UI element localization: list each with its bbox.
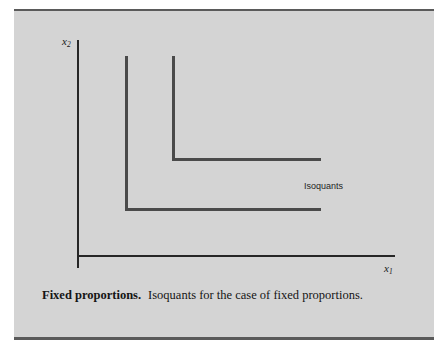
bottom-rule	[14, 337, 434, 340]
isoquant-2-horizontal-segment	[172, 158, 321, 161]
x-axis-label: x1	[384, 263, 393, 274]
figure-caption: Fixed proportions.Isoquants for the case…	[42, 287, 407, 303]
isoquant-1-horizontal-segment	[125, 208, 321, 211]
figure-container: x2 x1 Isoquants Fixed proportions.Isoqua…	[0, 0, 444, 352]
y-axis	[77, 40, 79, 268]
y-axis-label-subscript: 2	[67, 40, 71, 49]
x-axis	[77, 255, 395, 257]
y-axis-label: x2	[62, 36, 71, 47]
caption-title: Fixed proportions.	[42, 288, 141, 302]
isoquants-annotation-label: Isoquants	[304, 181, 343, 191]
isoquant-2-vertical-segment	[172, 56, 175, 161]
caption-body: Isoquants for the case of fixed proporti…	[148, 288, 363, 302]
isoquant-1-vertical-segment	[125, 56, 128, 211]
x-axis-label-subscript: 1	[389, 267, 393, 276]
